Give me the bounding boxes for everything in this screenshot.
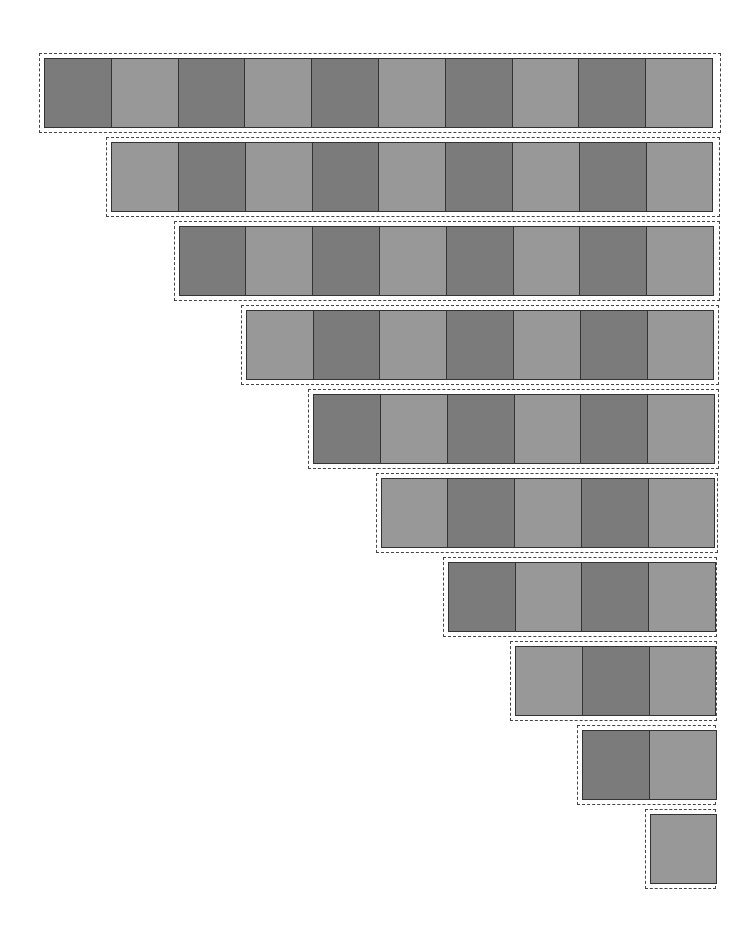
dark-square (581, 395, 648, 463)
light-square (514, 311, 581, 379)
dark-square (580, 143, 647, 211)
square-strip (179, 226, 714, 296)
light-square (650, 647, 716, 715)
square-strip (111, 142, 713, 212)
dark-square (447, 311, 514, 379)
dark-square (446, 59, 513, 127)
square-strip (582, 730, 717, 800)
light-square (247, 311, 314, 379)
light-square (647, 227, 713, 295)
light-square (382, 479, 449, 547)
light-square (245, 59, 312, 127)
dark-square (314, 395, 381, 463)
light-square (516, 647, 583, 715)
light-square (112, 143, 179, 211)
light-square (379, 143, 446, 211)
light-square (650, 731, 716, 799)
light-square (380, 311, 447, 379)
square-row (510, 641, 717, 721)
dark-square (583, 731, 650, 799)
dark-square (314, 311, 381, 379)
light-square (649, 479, 715, 547)
light-square (380, 227, 447, 295)
light-square (513, 143, 580, 211)
dark-square (313, 143, 380, 211)
light-square (379, 59, 446, 127)
dark-square (447, 227, 514, 295)
light-square (646, 59, 712, 127)
dark-square (448, 395, 515, 463)
dark-square (582, 479, 649, 547)
square-row (241, 305, 719, 385)
light-square (647, 143, 713, 211)
square-row (645, 809, 716, 889)
square-strip (381, 478, 716, 548)
light-square (515, 395, 582, 463)
light-square (112, 59, 179, 127)
dark-square (312, 59, 379, 127)
square-strip (448, 562, 716, 632)
square-row (308, 389, 718, 469)
dark-square (583, 647, 650, 715)
light-square (648, 395, 714, 463)
square-strip (515, 646, 716, 716)
light-square (513, 59, 580, 127)
square-strip (246, 310, 715, 380)
square-strip (44, 58, 713, 128)
dark-square (179, 143, 246, 211)
dark-square (180, 227, 247, 295)
square-strip (650, 814, 718, 884)
light-square (381, 395, 448, 463)
dark-square (179, 59, 246, 127)
light-square (246, 227, 313, 295)
dark-square (579, 59, 646, 127)
light-square (516, 563, 583, 631)
dark-square (581, 311, 648, 379)
square-row (174, 221, 720, 301)
light-square (246, 143, 313, 211)
dark-square (582, 563, 649, 631)
light-square (514, 227, 581, 295)
light-square (651, 815, 717, 883)
dark-square (449, 563, 516, 631)
light-square (515, 479, 582, 547)
square-strip (313, 394, 715, 464)
dark-square (448, 479, 515, 547)
square-row (376, 473, 719, 553)
dark-square (45, 59, 112, 127)
dark-square (446, 143, 513, 211)
light-square (649, 563, 715, 631)
square-row (106, 137, 720, 217)
light-square (648, 311, 714, 379)
dark-square (313, 227, 380, 295)
square-row (443, 557, 718, 637)
dark-square (580, 227, 647, 295)
square-row (39, 53, 721, 133)
square-row (577, 725, 716, 805)
